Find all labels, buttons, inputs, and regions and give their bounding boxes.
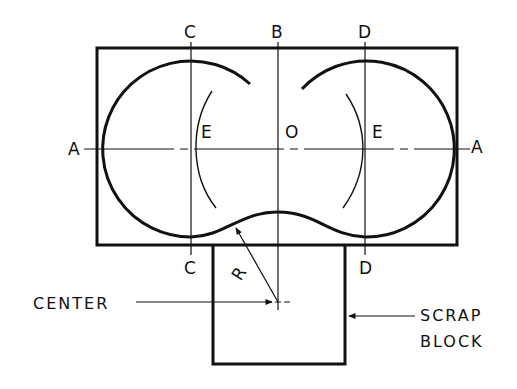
label-c-bottom: C (184, 260, 197, 277)
workpiece-outline (97, 48, 457, 245)
callout-center: CENTER (33, 294, 109, 314)
callout-scrap: SCRAP (420, 306, 482, 326)
label-e-right: E (372, 124, 384, 141)
radius-arrow (236, 228, 278, 302)
label-c-top: C (184, 24, 197, 41)
label-a-right: A (471, 139, 484, 156)
label-d-top: D (358, 24, 372, 41)
technical-drawing (0, 0, 517, 389)
label-b-top: B (271, 24, 284, 41)
label-e-left: E (201, 124, 213, 141)
callout-block: BLOCK (420, 332, 484, 352)
label-o-center: O (285, 124, 299, 141)
right-inner-arc (343, 94, 363, 208)
label-a-left: A (68, 141, 81, 158)
label-d-bottom: D (359, 260, 373, 277)
